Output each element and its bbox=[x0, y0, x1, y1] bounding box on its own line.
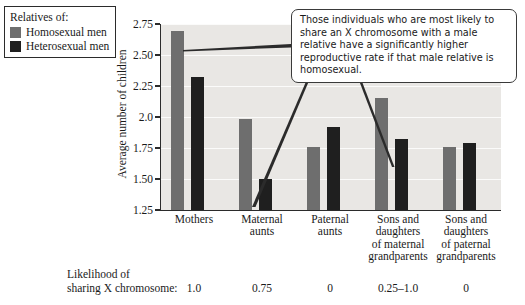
x-axis-category-label: Sons anddaughtersof maternalgrandparents bbox=[364, 213, 432, 263]
y-axis-ticks: 1.251.501.752.02.252.502.75 bbox=[131, 24, 160, 210]
legend-label-homosexual: Homosexual men bbox=[26, 25, 107, 39]
likelihood-label-line1: Likelihood of bbox=[67, 267, 178, 281]
likelihood-value: 1.0 bbox=[160, 281, 228, 295]
x-axis-category-labels: MothersMaternalauntsPaternalauntsSons an… bbox=[160, 213, 500, 271]
likelihood-value: 0.25–1.0 bbox=[364, 281, 432, 295]
legend-item-heterosexual: Heterosexual men bbox=[10, 39, 111, 53]
legend-label-heterosexual: Heterosexual men bbox=[26, 39, 109, 53]
bar-group bbox=[229, 24, 297, 210]
bar bbox=[463, 143, 476, 210]
bar bbox=[259, 179, 272, 210]
x-axis-category-label-line: grandparents bbox=[364, 250, 432, 262]
x-axis-category-label-line: aunts bbox=[228, 225, 296, 237]
likelihood-row: Likelihood of sharing X chromosome: 1.00… bbox=[0, 267, 525, 301]
callout-text: Those individuals who are most likely to… bbox=[300, 14, 494, 75]
callout-box: Those individuals who are most likely to… bbox=[291, 9, 517, 83]
y-axis-tick-label: 2.75 bbox=[133, 19, 153, 31]
x-axis-category-label-line: of paternal bbox=[432, 238, 500, 250]
x-axis-category-label-line: aunts bbox=[296, 225, 364, 237]
bar bbox=[375, 98, 388, 210]
x-axis-category-label-line: Sons and bbox=[432, 213, 500, 225]
x-axis-category-label-line: Maternal bbox=[228, 213, 296, 225]
likelihood-value: 0.75 bbox=[228, 281, 296, 295]
legend: Relatives of: Homosexual men Heterosexua… bbox=[4, 6, 116, 58]
x-axis-category-label: Sons anddaughtersof paternalgrandparents bbox=[432, 213, 500, 263]
bar bbox=[171, 31, 184, 210]
x-axis-category-label: Maternalaunts bbox=[228, 213, 296, 238]
likelihood-value: 0 bbox=[296, 281, 364, 295]
x-axis-category-label-line: grandparents bbox=[432, 250, 500, 262]
y-axis-tick-label: 2.0 bbox=[139, 112, 153, 124]
y-axis-tick-label: 1.25 bbox=[133, 205, 153, 217]
bar bbox=[395, 139, 408, 210]
bar bbox=[191, 77, 204, 210]
x-axis-category-label: Paternalaunts bbox=[296, 213, 364, 238]
legend-item-homosexual: Homosexual men bbox=[10, 25, 111, 39]
x-axis-category-label-line: Paternal bbox=[296, 213, 364, 225]
bar bbox=[239, 119, 252, 210]
x-axis-category-label-line: of maternal bbox=[364, 238, 432, 250]
legend-title: Relatives of: bbox=[10, 10, 111, 24]
likelihood-value: 0 bbox=[432, 281, 500, 295]
legend-swatch-homosexual-icon bbox=[10, 27, 21, 38]
legend-swatch-heterosexual-icon bbox=[10, 41, 21, 52]
y-axis-title: Average number of children bbox=[113, 18, 131, 210]
x-axis-category-label: Mothers bbox=[160, 213, 228, 225]
x-axis-category-label-line: daughters bbox=[432, 225, 500, 237]
bar-group bbox=[161, 24, 229, 210]
y-axis-tick-label: 2.25 bbox=[133, 81, 153, 93]
bar bbox=[443, 147, 456, 210]
x-axis-category-label-line: daughters bbox=[364, 225, 432, 237]
bar bbox=[307, 147, 320, 210]
y-axis-title-text: Average number of children bbox=[116, 49, 128, 178]
y-axis-tick-label: 1.50 bbox=[133, 174, 153, 186]
bar bbox=[327, 127, 340, 210]
x-axis-category-label-line: Sons and bbox=[364, 213, 432, 225]
y-axis-tick-label: 2.50 bbox=[133, 50, 153, 62]
x-axis-category-label-line: Mothers bbox=[160, 213, 228, 225]
y-axis-tick-label: 1.75 bbox=[133, 143, 153, 155]
